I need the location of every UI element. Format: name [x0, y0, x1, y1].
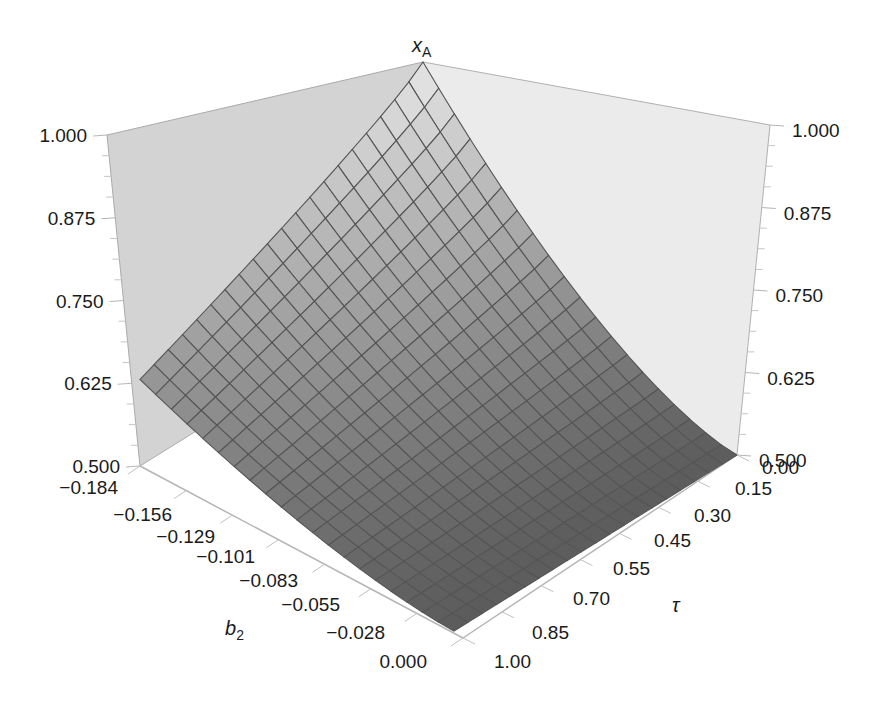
tau-tick-label: 0.85 [532, 622, 569, 643]
z-tick-label: 1.000 [39, 125, 87, 146]
z-tick-label: 0.875 [784, 203, 832, 224]
tau-tick-label: 0.15 [735, 478, 772, 499]
b2-tick-label: −0.156 [113, 504, 172, 525]
b2-tick-label: 0.000 [379, 651, 427, 672]
b2-axis-title: b2 [225, 617, 244, 643]
z-tick-label: 1.000 [792, 120, 840, 141]
b2-tick-label: −0.129 [156, 526, 215, 547]
z-tick-label: 0.625 [767, 368, 815, 389]
b2-tick-label: −0.028 [326, 622, 385, 643]
b2-tick-label: −0.101 [196, 546, 255, 567]
tau-axis-title: τ [672, 594, 681, 616]
b2-tick-label: −0.184 [59, 477, 118, 498]
tau-tick-label: 0.00 [762, 457, 799, 478]
z-tick-label: 0.875 [48, 208, 96, 229]
tau-tick-label: 0.45 [654, 530, 691, 551]
z-tick-label: 0.500 [72, 456, 120, 477]
z-axis-title: xA [411, 34, 432, 60]
b2-tick-label: −0.083 [239, 570, 298, 591]
surface-plot: 0.5000.6250.7500.8751.000 0.5000.6250.75… [0, 0, 875, 714]
z-tick-label: 0.750 [776, 285, 824, 306]
tau-tick-label: 0.70 [573, 588, 610, 609]
tau-tick-label: 1.00 [494, 651, 531, 672]
b2-tick-label: −0.055 [281, 594, 340, 615]
z-tick-label: 0.750 [56, 291, 104, 312]
z-tick-label: 0.625 [64, 373, 112, 394]
tau-tick-label: 0.30 [694, 505, 731, 526]
tau-tick-label: 0.55 [613, 558, 650, 579]
